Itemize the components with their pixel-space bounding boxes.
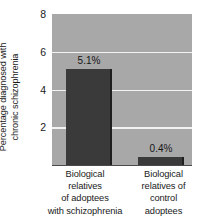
y-tick-label: 6: [20, 47, 46, 57]
bar-value-label: 5.1%: [59, 56, 119, 66]
y-tick-label: 4: [20, 85, 46, 95]
bar: [66, 69, 112, 165]
x-category-label: Biological relatives of control adoptees: [128, 168, 199, 217]
bar-series: [52, 14, 192, 165]
bar-chart: Percentage diagnosed with chronic schizo…: [0, 0, 199, 219]
y-tick-label: 2: [20, 122, 46, 132]
x-category-label: Biological relatives of adoptees with sc…: [32, 168, 138, 217]
bar: [138, 157, 184, 165]
x-axis-category-labels: Biological relatives of adoptees with sc…: [0, 168, 199, 219]
y-tick-label: 8: [20, 9, 46, 19]
bar-value-label: 0.4%: [131, 144, 191, 154]
